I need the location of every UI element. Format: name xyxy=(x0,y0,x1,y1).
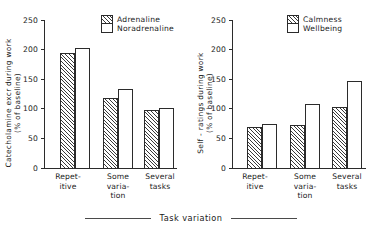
legend-swatch-group xyxy=(101,15,113,33)
y-tick-50 xyxy=(41,138,45,139)
x-tick-label-line2: varia- xyxy=(100,182,136,192)
y-tick-label-200: 200 xyxy=(208,45,226,54)
x-tick-label-line2: itive xyxy=(50,182,86,192)
x-axis-caption: Task variation xyxy=(160,213,223,223)
legend-swatch-noradrenaline xyxy=(101,24,113,33)
y-tick-label-250: 250 xyxy=(208,16,226,25)
x-axis-caption-row: Task variation xyxy=(0,209,382,227)
bar-noradrenaline-several-tasks xyxy=(159,108,174,169)
x-tick-label-repetitive: Repet- itive xyxy=(237,172,273,191)
y-tick-label-100: 100 xyxy=(208,104,226,113)
legend-label-noradrenaline: Noradrenaline xyxy=(117,24,174,33)
legend-label-calmness: Calmness xyxy=(303,15,342,24)
legend-self-ratings: Calmness Wellbeing xyxy=(287,15,342,34)
x-tick-label-line1: Repet- xyxy=(237,172,273,182)
y-tick-50 xyxy=(229,138,233,139)
y-tick-label-150: 150 xyxy=(20,75,38,84)
chart-panel-catecholamine: Catecholamine excr during work (% of bas… xyxy=(0,0,191,205)
caption-rule-right xyxy=(231,218,297,219)
x-tick-label-line2: tasks xyxy=(328,182,366,192)
chart-panel-self-ratings: Self - ratings during work (% of baselin… xyxy=(191,0,382,205)
y-tick-150 xyxy=(229,79,233,80)
x-tick-label-line1: Some xyxy=(287,172,323,182)
y-axis-title-line1: Catecholamine excr during work xyxy=(4,39,14,168)
y-tick-label-50: 50 xyxy=(208,134,226,143)
y-axis-title-line1: Self - ratings during work xyxy=(196,52,206,153)
y-tick-label-200: 200 xyxy=(20,45,38,54)
legend-swatch-adrenaline xyxy=(101,15,113,24)
y-tick-0 xyxy=(41,168,45,169)
legend-label-group: Adrenaline Noradrenaline xyxy=(117,15,174,34)
figure-root: Catecholamine excr during work (% of bas… xyxy=(0,0,382,229)
y-tick-100 xyxy=(41,108,45,109)
legend-catecholamine: Adrenaline Noradrenaline xyxy=(101,15,174,34)
x-tick-label-line1: Repet- xyxy=(50,172,86,182)
legend-label-adrenaline: Adrenaline xyxy=(117,15,174,24)
x-tick-label-some-variation: Some varia- tion xyxy=(100,172,136,201)
bar-adrenaline-several-tasks xyxy=(144,110,159,169)
bar-noradrenaline-some-variation xyxy=(118,89,133,169)
x-tick-label-several-tasks: Several tasks xyxy=(328,172,366,191)
bar-noradrenaline-repetitive xyxy=(75,48,90,169)
legend-swatch-wellbeing xyxy=(287,24,299,33)
y-tick-label-100: 100 xyxy=(20,104,38,113)
x-tick-label-line3: tion xyxy=(100,191,136,201)
y-axis-line xyxy=(232,20,233,169)
bar-calmness-several-tasks xyxy=(332,107,347,169)
x-tick-label-line2: itive xyxy=(237,182,273,192)
bar-calmness-repetitive xyxy=(247,127,262,169)
y-tick-label-0: 0 xyxy=(20,164,38,173)
y-tick-label-0: 0 xyxy=(208,164,226,173)
y-tick-250 xyxy=(41,20,45,21)
bar-wellbeing-several-tasks xyxy=(347,81,362,169)
y-tick-label-150: 150 xyxy=(208,75,226,84)
x-tick-label-line2: varia- xyxy=(287,182,323,192)
bar-wellbeing-some-variation xyxy=(305,104,320,169)
y-tick-0 xyxy=(229,168,233,169)
legend-label-wellbeing: Wellbeing xyxy=(303,24,342,33)
x-tick-label-line1: Some xyxy=(100,172,136,182)
bar-wellbeing-repetitive xyxy=(262,124,277,169)
caption-rule-left xyxy=(85,218,151,219)
y-tick-label-50: 50 xyxy=(20,134,38,143)
x-tick-label-repetitive: Repet- itive xyxy=(50,172,86,191)
x-tick-label-several-tasks: Several tasks xyxy=(141,172,179,191)
y-tick-100 xyxy=(229,108,233,109)
x-tick-label-some-variation: Some varia- tion xyxy=(287,172,323,201)
y-tick-200 xyxy=(41,49,45,50)
y-tick-250 xyxy=(229,20,233,21)
y-axis-line xyxy=(44,20,45,169)
legend-swatch-calmness xyxy=(287,15,299,24)
legend-label-group: Calmness Wellbeing xyxy=(303,15,342,34)
x-tick-label-line2: tasks xyxy=(141,182,179,192)
legend-swatch-group xyxy=(287,15,299,33)
y-tick-200 xyxy=(229,49,233,50)
x-tick-label-line1: Several xyxy=(141,172,179,182)
x-tick-label-line3: tion xyxy=(287,191,323,201)
x-tick-label-line1: Several xyxy=(328,172,366,182)
y-tick-150 xyxy=(41,79,45,80)
y-tick-label-250: 250 xyxy=(20,16,38,25)
bar-calmness-some-variation xyxy=(290,125,305,169)
bar-adrenaline-repetitive xyxy=(60,53,75,169)
bar-adrenaline-some-variation xyxy=(103,98,118,169)
